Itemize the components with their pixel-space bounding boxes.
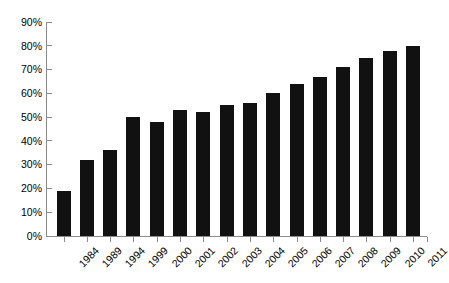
bar	[266, 93, 280, 236]
bar	[359, 58, 373, 236]
y-axis-tick-label: 90%	[21, 17, 47, 28]
bar-column	[290, 22, 304, 236]
x-axis-line	[46, 236, 427, 237]
x-axis-tick-label: 2005	[286, 245, 310, 269]
bar	[150, 122, 164, 236]
x-axis-tick-label: 2009	[379, 245, 403, 269]
bar-column	[103, 22, 117, 236]
bar-column	[220, 22, 234, 236]
x-axis-tick-label: 2008	[356, 245, 380, 269]
y-axis-tick-label: 10%	[21, 207, 47, 218]
bar-column	[383, 22, 397, 236]
plot-area	[46, 22, 427, 236]
x-axis-tick-mark	[390, 237, 391, 242]
bar	[126, 117, 140, 236]
y-axis-tick-label: 60%	[21, 88, 47, 99]
x-axis-tick-mark	[343, 237, 344, 242]
bar	[383, 51, 397, 236]
y-axis-tick-label: 30%	[21, 159, 47, 170]
x-axis-tick-mark	[250, 237, 251, 242]
x-axis-tick-mark	[297, 237, 298, 242]
x-axis-tick-label: 2011	[426, 245, 449, 268]
x-axis-tick-mark	[227, 237, 228, 242]
bar-column	[150, 22, 164, 236]
y-axis-tick-label: 0%	[27, 231, 47, 242]
bar	[290, 84, 304, 236]
x-axis-tick-mark	[133, 237, 134, 242]
bar-column	[359, 22, 373, 236]
x-axis-tick-label: 2006	[309, 245, 333, 269]
bar	[80, 160, 94, 236]
y-axis-tick-label: 50%	[21, 112, 47, 123]
x-axis-tick-label: 2001	[193, 245, 217, 269]
bar	[313, 77, 327, 236]
bar	[196, 112, 210, 236]
y-axis-tick-label: 80%	[21, 41, 47, 52]
x-axis-tick-mark	[110, 237, 111, 242]
x-axis-tick-label: 2010	[403, 245, 427, 269]
x-axis-tick-label: 2000	[170, 245, 194, 269]
bar-column	[80, 22, 94, 236]
bar-column	[336, 22, 350, 236]
x-axis-tick-label: 1984	[76, 245, 100, 269]
bar	[336, 67, 350, 236]
x-axis-tick-mark	[64, 237, 65, 242]
bar-column	[173, 22, 187, 236]
x-axis-tick-mark	[320, 237, 321, 242]
bar-column	[196, 22, 210, 236]
x-axis-tick-label: 2002	[216, 245, 240, 269]
x-axis-tick-mark	[203, 237, 204, 242]
x-axis-tick-mark	[366, 237, 367, 242]
x-axis-tick-label: 2003	[239, 245, 263, 269]
x-axis-tick-mark	[87, 237, 88, 242]
x-axis-tick-label: 1999	[146, 245, 170, 269]
bar	[173, 110, 187, 236]
bar	[406, 46, 420, 236]
x-axis-tick-mark	[180, 237, 181, 242]
bar	[103, 150, 117, 236]
x-axis-tick-mark	[157, 237, 158, 242]
x-axis-tick-mark	[413, 237, 414, 242]
bar	[57, 191, 71, 236]
x-axis-tick-label: 1989	[100, 245, 124, 269]
y-axis-tick-label: 20%	[21, 183, 47, 194]
bar-column	[266, 22, 280, 236]
bar	[243, 103, 257, 236]
bar-column	[243, 22, 257, 236]
x-axis-tick-label: 1994	[123, 245, 147, 269]
x-axis-tick-label: 2007	[333, 245, 357, 269]
x-axis-tick-mark	[273, 237, 274, 242]
bar-column	[57, 22, 71, 236]
x-axis-end-tick-mark	[427, 237, 428, 242]
bar	[220, 105, 234, 236]
y-axis-tick-label: 70%	[21, 64, 47, 75]
x-axis-tick-label: 2004	[263, 245, 287, 269]
bar-column	[406, 22, 420, 236]
y-axis-tick-label: 40%	[21, 136, 47, 147]
bar-column	[313, 22, 327, 236]
bar-column	[126, 22, 140, 236]
